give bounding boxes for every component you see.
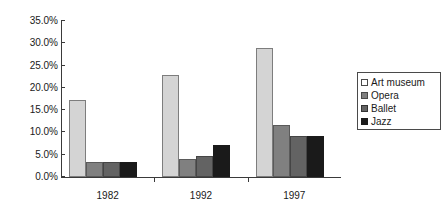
x-axis-category-label: 1982 <box>61 190 154 202</box>
legend-item-label: Ballet <box>371 103 396 115</box>
legend-item[interactable]: Art museum <box>361 76 440 89</box>
bar <box>273 125 290 177</box>
y-axis-tick-label: 15.0% <box>30 104 58 116</box>
y-axis-tick-mark <box>61 131 65 132</box>
legend-item[interactable]: Ballet <box>361 102 440 115</box>
x-axis-line <box>61 177 341 178</box>
y-axis-tick-mark <box>61 20 65 21</box>
y-axis-tick: 35.0% <box>0 15 68 27</box>
y-axis-tick-label: 30.0% <box>30 37 58 49</box>
x-axis-category-label: 1997 <box>248 190 341 202</box>
bar <box>103 162 120 177</box>
y-axis-tick-mark <box>61 87 65 88</box>
bar <box>179 159 196 177</box>
legend-swatch-icon <box>361 118 368 125</box>
y-axis-tick-label: 10.0% <box>30 126 58 138</box>
legend-item[interactable]: Jazz <box>361 115 440 128</box>
y-axis-tick: 5.0% <box>0 149 68 161</box>
y-axis-tick-label: 20.0% <box>30 82 58 94</box>
legend-item[interactable]: Opera <box>361 89 440 102</box>
x-axis-category-label: 1992 <box>154 190 247 202</box>
y-axis-tick: 25.0% <box>0 60 68 72</box>
y-axis-tick-mark <box>61 109 65 110</box>
bar <box>256 48 273 177</box>
legend-item-label: Jazz <box>371 116 392 128</box>
bar <box>213 145 230 177</box>
x-axis-separator-tick <box>248 178 249 182</box>
bar <box>86 162 103 177</box>
y-axis-tick-mark <box>61 176 65 177</box>
bar <box>196 156 213 177</box>
y-axis-tick-label: 25.0% <box>30 60 58 72</box>
y-axis-tick-mark <box>61 42 65 43</box>
y-axis-tick: 10.0% <box>0 126 68 138</box>
chart-legend: Art museumOperaBalletJazz <box>357 72 441 130</box>
legend-item-label: Art museum <box>371 77 425 89</box>
bar <box>162 75 179 177</box>
y-axis-tick: 30.0% <box>0 37 68 49</box>
legend-swatch-icon <box>361 105 368 112</box>
bar <box>120 162 137 177</box>
bar <box>307 136 324 177</box>
legend-swatch-icon <box>361 92 368 99</box>
bar <box>69 100 86 177</box>
y-axis-tick-label: 35.0% <box>30 15 58 27</box>
legend-item-label: Opera <box>371 90 399 102</box>
y-axis-tick-label: 0.0% <box>35 171 58 183</box>
y-axis-tick: 15.0% <box>0 104 68 116</box>
y-axis-tick-mark <box>61 154 65 155</box>
x-axis-separator-tick <box>154 178 155 182</box>
y-axis-tick: 20.0% <box>0 82 68 94</box>
bar-chart: 35.0%30.0%25.0%20.0%15.0%10.0%5.0%0.0% 1… <box>0 0 442 215</box>
bar <box>290 136 307 177</box>
y-axis-tick: 0.0% <box>0 171 68 183</box>
legend-swatch-icon <box>361 79 368 86</box>
y-axis-tick-label: 5.0% <box>35 149 58 161</box>
y-axis-tick-mark <box>61 65 65 66</box>
